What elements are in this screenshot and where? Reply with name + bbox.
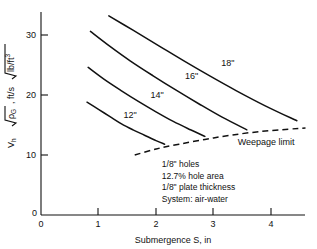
y-tick-label-10: 10 [26,150,36,160]
x-tick-label-4: 4 [268,219,273,229]
y-axis-rho-g: ρG [6,109,17,119]
y-axis-title: Vh ρG , ft/s lb/ft3 [4,44,17,148]
annotation-line-4: System: air-water [162,194,228,204]
curve-label-18-: 18" [221,58,234,68]
annotation-block: 1/8" holes12.7% hole area1/8" plate thic… [162,159,235,204]
curve-label-12-: 12" [123,110,136,120]
curve-16- [90,31,246,129]
data-curves [87,16,306,155]
y-axis-ticks [41,35,48,155]
chart-figure: 30 20 10 0 0 1 2 3 4 Submergence S, in V… [0,0,317,249]
curve-label-weepage-limit: Weepage limit [238,137,295,147]
y-axis-units-mid: , ft/s [6,86,16,104]
curve-label-16-: 16" [185,71,198,81]
curve-18- [109,16,297,121]
curve-label-14-: 14" [151,90,164,100]
annotation-line-3: 1/8" plate thickness [162,182,235,192]
y-axis-title-symbol: Vh [6,138,17,148]
x-tick-label-3: 3 [210,219,215,229]
annotation-line-1: 1/8" holes [162,159,200,169]
annotation-line-2: 12.7% hole area [162,171,224,181]
x-tick-label-0: 0 [38,219,43,229]
y-tick-label-0: 0 [32,208,37,218]
x-tick-labels: 0 1 2 3 4 [38,219,273,229]
x-axis-title: Submergence S, in [135,235,212,245]
y-tick-labels: 30 20 10 0 [26,30,37,218]
x-axis-ticks [98,208,271,215]
y-tick-label-30: 30 [26,30,36,40]
chart-canvas: 30 20 10 0 0 1 2 3 4 Submergence S, in V… [0,0,317,249]
y-axis-lb-ft3: lb/ft3 [4,53,16,72]
x-tick-label-2: 2 [153,219,158,229]
x-tick-label-1: 1 [95,219,100,229]
curve-12- [87,102,165,144]
y-tick-label-20: 20 [26,90,36,100]
curve-labels: 12"14"16"18"Weepage limit [123,58,295,147]
